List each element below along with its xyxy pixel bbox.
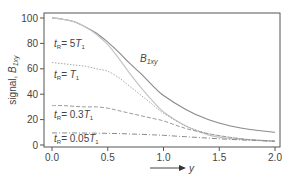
- y-tick-label: 40: [27, 89, 39, 100]
- x-tick-label: 2.0: [268, 152, 282, 163]
- series-line: [52, 63, 275, 142]
- annotation-tr-5t1: tR= 5T1: [54, 38, 85, 50]
- plot-frame: [44, 13, 280, 147]
- x-tick-label: 0.5: [101, 152, 115, 163]
- x-tick-label: 0.0: [45, 152, 59, 163]
- y-tick-label: 100: [21, 13, 38, 24]
- y-tick-label: 80: [27, 38, 39, 49]
- x-axis-label: y: [188, 163, 195, 174]
- annotation-tr-0.3t1: tR= 0.3T1: [54, 109, 94, 121]
- annotation-tr-t1: tR= T1: [54, 69, 80, 81]
- annotation-tr-0.05t1: tR= 0.05T1: [54, 133, 99, 145]
- signal-chart: 020406080100 0.00.51.01.52.0 signal, B1x…: [0, 0, 297, 182]
- x-tick-label: 1.0: [157, 152, 171, 163]
- y-axis-ticks: 020406080100: [21, 13, 44, 151]
- x-axis-ticks: 0.00.51.01.52.0: [45, 147, 282, 163]
- series-lines: [52, 18, 275, 141]
- arrow-head-icon: [179, 165, 186, 171]
- annotation-b1xy: B1xy: [140, 53, 158, 66]
- y-tick-label: 0: [32, 140, 38, 151]
- x-tick-label: 1.5: [212, 152, 226, 163]
- y-axis-label: signal, B1xy: [7, 55, 20, 105]
- y-tick-label: 20: [27, 114, 39, 125]
- series-line: [52, 18, 275, 141]
- y-tick-label: 60: [27, 63, 39, 74]
